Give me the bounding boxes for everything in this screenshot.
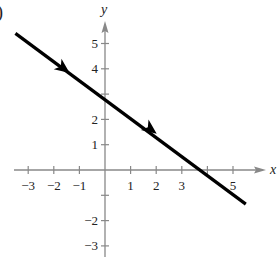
x-axis-label: x [269, 162, 277, 177]
y-axis-label: y [99, 2, 108, 17]
x-tick-label: −2 [47, 178, 61, 193]
x-tick-label: −1 [72, 178, 86, 193]
x-tick-label: 1 [127, 178, 134, 193]
x-tick-label: 5 [230, 178, 237, 193]
ticks: −3−2−112355421−2−3 [21, 36, 236, 253]
direction-arrow-icon [141, 120, 161, 139]
x-tick-label: 2 [153, 178, 160, 193]
x-tick-label: 3 [179, 178, 186, 193]
line-chart: xy −3−2−112355421−2−3 [0, 0, 279, 262]
y-tick-label: 5 [92, 36, 99, 51]
y-tick-label: 4 [92, 61, 99, 76]
y-tick-label: 1 [92, 137, 99, 152]
x-tick-label: −3 [21, 178, 35, 193]
y-tick-label: −2 [84, 213, 98, 228]
y-tick-label: 2 [92, 112, 99, 127]
y-tick-label: −3 [84, 238, 98, 253]
